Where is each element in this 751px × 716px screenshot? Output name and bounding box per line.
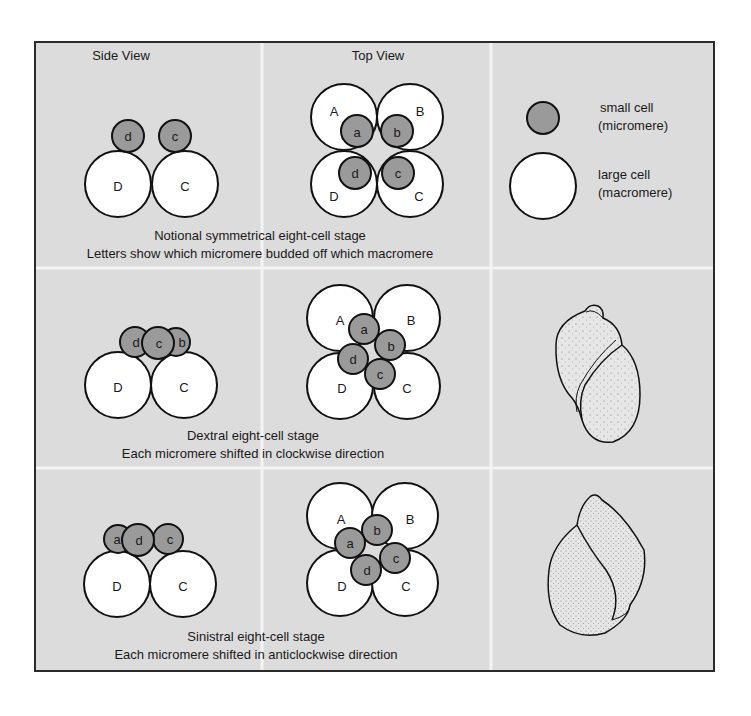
caption-sinistral-subtitle: Each micromere shifted in anticlockwise … (114, 647, 397, 662)
label-b: b (387, 339, 394, 354)
caption-symmetrical-title: Notional symmetrical eight-cell stage (154, 228, 366, 243)
label-c: c (393, 551, 400, 566)
caption-dextral-subtitle: Each micromere shifted in clockwise dire… (122, 446, 384, 461)
label-b: b (178, 335, 185, 350)
legend-large-cell-label: large cell (598, 167, 650, 182)
label-d: d (124, 129, 131, 144)
label-B: B (416, 104, 425, 119)
label-c: c (377, 367, 384, 382)
label-C: C (401, 579, 410, 594)
header-side-view: Side View (92, 48, 150, 63)
label-c: c (395, 166, 402, 181)
label-C: C (179, 380, 188, 395)
label-b: b (393, 125, 400, 140)
label-D: D (329, 189, 338, 204)
caption-symmetrical-subtitle: Letters show which micromere budded off … (87, 246, 434, 261)
legend-micromere-swatch (527, 102, 559, 134)
label-C: C (178, 579, 187, 594)
label-D: D (113, 179, 122, 194)
label-d: d (363, 563, 370, 578)
label-a: a (353, 125, 361, 140)
label-A: A (337, 512, 346, 527)
label-b: b (373, 523, 380, 538)
label-c: c (156, 336, 163, 351)
label-B: B (407, 313, 416, 328)
caption-sinistral-title: Sinistral eight-cell stage (187, 629, 324, 644)
header-top-view: Top View (352, 48, 405, 63)
label-a: a (360, 322, 368, 337)
caption-dextral-title: Dextral eight-cell stage (187, 428, 319, 443)
label-D: D (337, 381, 346, 396)
legend-micromere-label: (micromere) (598, 118, 668, 133)
label-B: B (406, 512, 415, 527)
label-D: D (337, 579, 346, 594)
label-C: C (402, 381, 411, 396)
label-C: C (414, 189, 423, 204)
label-c: c (172, 129, 179, 144)
label-A: A (330, 104, 339, 119)
label-c: c (167, 532, 174, 547)
label-C: C (180, 179, 189, 194)
cleavage-diagram: Side View Top View (0, 0, 751, 716)
label-d: d (351, 166, 358, 181)
label-D: D (113, 380, 122, 395)
label-d: d (349, 352, 356, 367)
legend-small-cell-label: small cell (600, 100, 654, 115)
label-A: A (336, 313, 345, 328)
legend-macromere-swatch (510, 153, 576, 219)
label-d: d (132, 335, 139, 350)
label-a: a (113, 532, 121, 547)
label-D: D (112, 579, 121, 594)
label-a: a (346, 536, 354, 551)
label-d: d (135, 533, 142, 548)
legend-macromere-label: (macromere) (598, 185, 672, 200)
